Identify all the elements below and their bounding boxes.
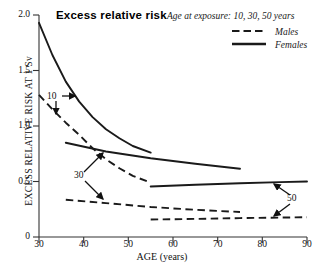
x-tick-label-0: 30 bbox=[26, 240, 52, 250]
legend-heading: Age at exposure: 10, 30, 50 years bbox=[167, 12, 294, 22]
annotation-arrows-10 bbox=[56, 96, 75, 114]
x-tick-label-3: 60 bbox=[160, 240, 186, 250]
series-females-age50 bbox=[151, 182, 307, 187]
x-tick-label-6: 90 bbox=[294, 240, 320, 250]
chart-title: Excess relative risk bbox=[56, 10, 167, 22]
y-tick-label-4: 2.0 bbox=[4, 10, 30, 20]
series-males-age50 bbox=[151, 217, 307, 219]
annotation-label-10: 10 bbox=[47, 92, 57, 102]
chart-figure: Excess relative risk Age at exposure: 10… bbox=[0, 0, 324, 267]
series-males-age30 bbox=[66, 200, 240, 212]
legend-label-females: Females bbox=[275, 41, 307, 51]
y-tick-label-3: 1.5 bbox=[4, 66, 30, 76]
x-axis-title: AGE (years) bbox=[0, 252, 324, 262]
series-females-age10-true bbox=[39, 23, 151, 153]
x-tick-label-4: 70 bbox=[205, 240, 231, 250]
x-tick-label-1: 40 bbox=[71, 240, 97, 250]
annotation-label-30: 30 bbox=[74, 171, 84, 181]
x-tick-label-5: 80 bbox=[249, 240, 275, 250]
annotation-arrows-30 bbox=[84, 153, 103, 199]
annotation-label-50: 50 bbox=[287, 194, 297, 204]
x-tick-label-2: 50 bbox=[115, 240, 141, 250]
y-tick-label-2: 1.0 bbox=[4, 121, 30, 131]
legend-label-males: Males bbox=[275, 28, 298, 38]
y-tick-label-1: 0.5 bbox=[4, 177, 30, 187]
chart-axes bbox=[39, 15, 307, 237]
